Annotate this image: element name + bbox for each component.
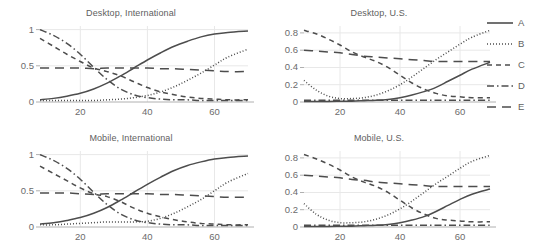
series-line-E: [40, 193, 248, 197]
y-tick-label: 0.8: [268, 27, 298, 38]
x-tick-label: 60: [199, 106, 229, 117]
y-tick-label: 0.2: [268, 204, 298, 215]
legend-label-D: D: [518, 81, 525, 91]
x-tick-label: 40: [132, 106, 162, 117]
series-line-B: [40, 173, 248, 224]
x-tick-label: 20: [325, 231, 355, 242]
chart-panel-mobile-international: Mobile, International00.51204060: [14, 133, 264, 249]
longdash-line-key: [487, 102, 513, 112]
y-tick-label: 0: [268, 96, 298, 107]
series-line-E: [304, 50, 490, 61]
y-tick-label: 1: [14, 149, 34, 160]
y-tick-label: 1: [14, 24, 34, 35]
x-tick-label: 20: [65, 231, 95, 242]
x-tick-label: 40: [385, 106, 415, 117]
y-tick-label: 0.4: [268, 61, 298, 72]
legend-entry-A[interactable]: A: [487, 18, 524, 28]
legend-label-A: A: [518, 18, 524, 28]
series-line-C: [304, 154, 490, 221]
legend-label-E: E: [518, 102, 524, 112]
y-tick-label: 0.2: [268, 79, 298, 90]
x-tick-label: 60: [199, 231, 229, 242]
plot-area-desktop-us: [268, 8, 504, 108]
chart-panel-desktop-international: Desktop, International00.51204060: [14, 8, 264, 124]
plot-area-mobile-us: [268, 133, 504, 233]
plot-area-mobile-international: [14, 133, 262, 233]
y-tick-label: 0.5: [14, 185, 34, 196]
series-line-A: [304, 62, 490, 101]
y-tick-label: 0.4: [268, 186, 298, 197]
x-tick-label: 40: [385, 231, 415, 242]
gridlines: [304, 26, 490, 102]
y-tick-label: 0: [268, 221, 298, 232]
y-tick-label: 0.6: [268, 44, 298, 55]
x-tick-label: 20: [65, 106, 95, 117]
plot-area-desktop-international: [14, 8, 262, 108]
series-line-C: [40, 38, 248, 100]
legend-entry-E[interactable]: E: [487, 102, 524, 112]
x-tick-label: 20: [325, 106, 355, 117]
series-line-E: [40, 68, 248, 72]
solid-line-key: [487, 18, 513, 28]
chart-panel-mobile-us: Mobile, U.S.00.20.40.60.8204060: [268, 133, 506, 249]
y-tick-label: 0.6: [268, 169, 298, 180]
legend-label-C: C: [518, 60, 525, 70]
x-tick-label: 40: [132, 231, 162, 242]
legend-label-B: B: [518, 39, 524, 49]
legend-entry-C[interactable]: C: [487, 60, 525, 70]
dashdot-line-key: [487, 81, 513, 91]
chart-legend: ABCDE: [487, 18, 537, 118]
series-line-C: [304, 30, 490, 97]
legend-entry-B[interactable]: B: [487, 39, 524, 49]
gridlines: [304, 151, 490, 227]
series-line-D: [40, 30, 248, 101]
series-line-E: [304, 175, 490, 186]
gridlines: [40, 151, 248, 227]
y-tick-label: 0: [14, 96, 34, 107]
series-line-C: [40, 166, 248, 225]
y-tick-label: 0.8: [268, 152, 298, 163]
dashed-line-key: [487, 60, 513, 70]
gridlines: [40, 26, 248, 102]
y-tick-label: 0: [14, 221, 34, 232]
multi-panel-line-chart-figure: Desktop, International00.51204060Desktop…: [0, 0, 537, 250]
legend-entry-D[interactable]: D: [487, 81, 525, 91]
x-tick-label: 60: [445, 106, 475, 117]
y-tick-label: 0.5: [14, 60, 34, 71]
chart-panel-desktop-us: Desktop, U.S.00.20.40.60.8204060: [268, 8, 506, 124]
dotted-line-key: [487, 39, 513, 49]
x-tick-label: 60: [445, 231, 475, 242]
